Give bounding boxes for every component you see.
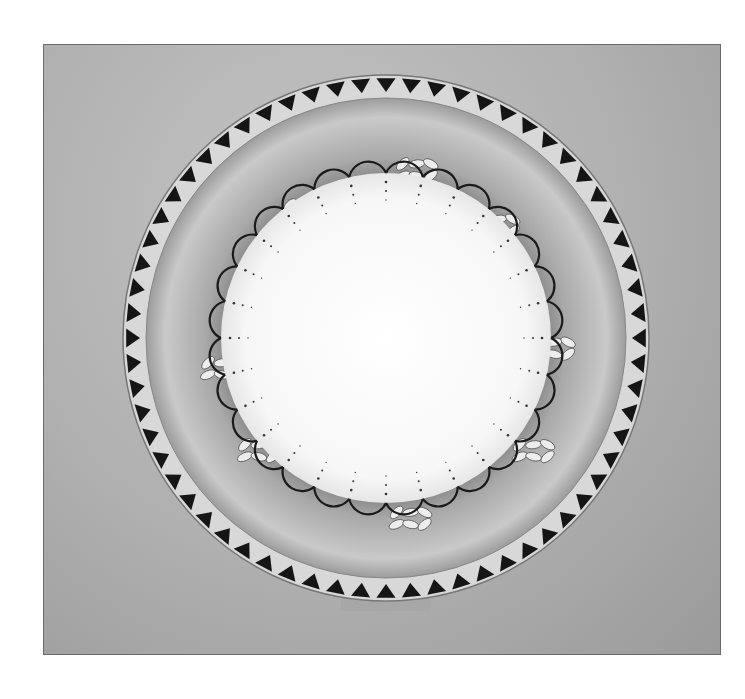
photograph <box>43 44 721 655</box>
plate-illustration <box>44 45 721 655</box>
